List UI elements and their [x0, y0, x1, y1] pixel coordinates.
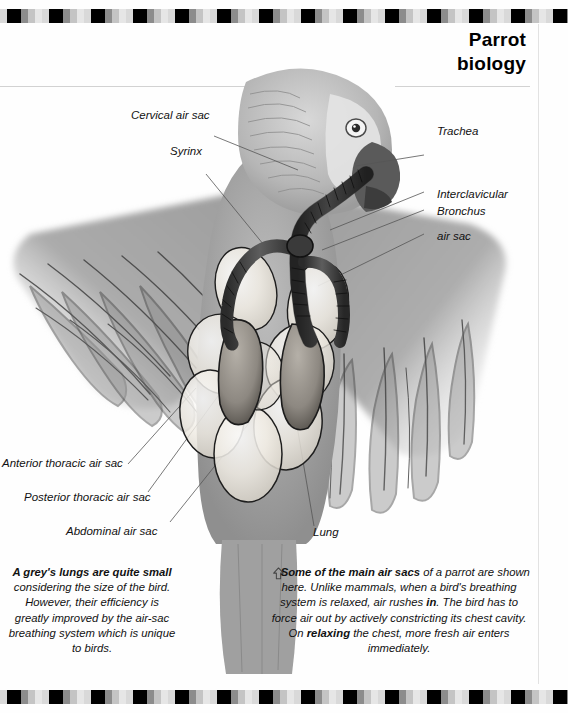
decorative-border-top [0, 9, 568, 23]
label-trachea: Trachea [437, 124, 478, 138]
caption-left: A grey's lungs are quite small consideri… [8, 565, 176, 656]
label-bronchus: Bronchus [437, 204, 486, 218]
page-margin-rule [538, 24, 539, 684]
label-syrinx: Syrinx [170, 144, 202, 158]
label-cervical-air-sac: Cervical air sac [131, 108, 210, 122]
parrot-head [238, 68, 400, 215]
page-root: Parrot biology [0, 0, 568, 713]
decorative-border-bottom [0, 690, 568, 704]
caption-right: Some of the main air sacs of a parrot ar… [268, 565, 530, 656]
caption-right-emph-1: in [426, 596, 436, 608]
label-interclavicular-line1: Interclavicular [437, 187, 508, 201]
label-interclavicular-line2: air sac [437, 229, 508, 243]
label-lung: Lung [313, 525, 339, 539]
caption-left-lead: A grey's lungs are quite small [12, 566, 171, 578]
caption-right-body-3: the chest, more fresh air enters immedia… [350, 627, 509, 654]
label-posterior-thoracic-air-sac: Posterior thoracic air sac [24, 490, 151, 504]
label-anterior-thoracic-air-sac: Anterior thoracic air sac [2, 456, 123, 470]
caption-right-emph-2: relaxing [307, 627, 350, 639]
caption-right-lead: Some of the main air sacs [281, 566, 420, 578]
syrinx [287, 235, 313, 257]
caption-left-body: considering the size of the bird. Howeve… [9, 581, 175, 654]
label-abdominal-air-sac: Abdominal air sac [66, 524, 157, 538]
